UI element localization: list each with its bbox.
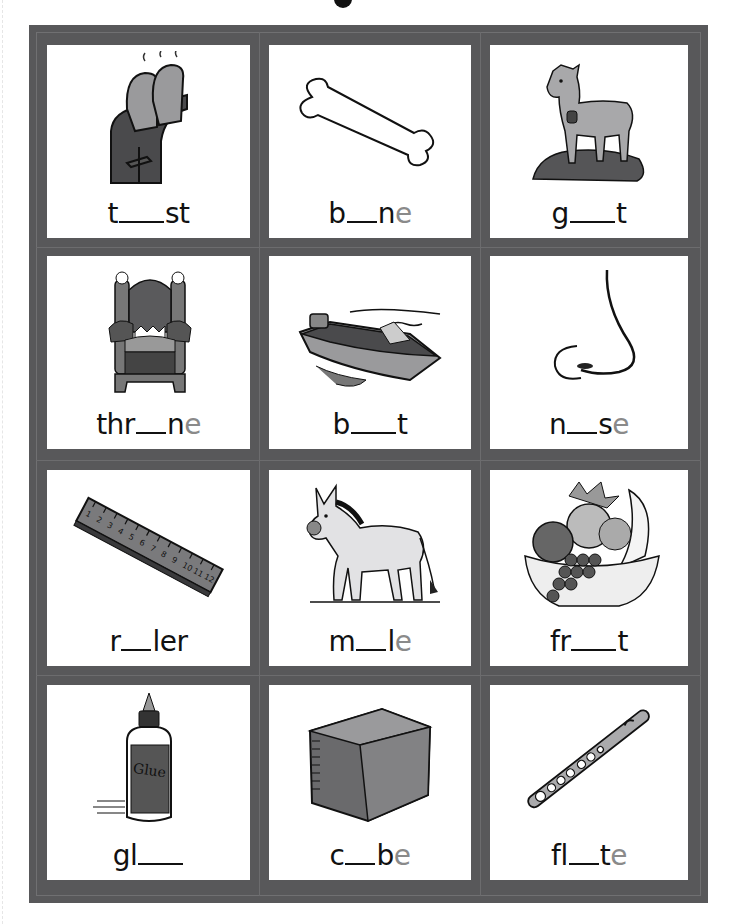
word-card-goat: gt [490,45,688,238]
word-prefix: gl [113,839,138,872]
word-prefix: g [552,197,569,230]
boat-icon [290,262,450,402]
page-edge-line [2,0,3,924]
grid-divider [36,460,701,461]
fill-in-blank[interactable] [571,627,616,651]
ruler-icon: 123456789101112 [69,476,229,616]
word-suffix: n [378,197,395,230]
fill-in-blank[interactable] [351,410,396,434]
word-prefix: thr [96,408,135,441]
word-prefix: b [333,408,350,441]
silent-e: e [394,839,411,872]
silent-e: e [395,625,412,658]
grid-divider [480,32,481,896]
bone-icon [290,51,450,191]
silent-e: e [395,197,412,230]
word-suffix: ler [152,625,187,658]
fill-in-blank[interactable] [136,410,166,434]
word-card-cube: cbe [269,685,471,880]
word-label: rler [47,626,250,658]
word-prefix: b [328,197,345,230]
fill-in-blank[interactable] [569,841,599,865]
word-prefix: m [329,625,356,658]
fruit-basket-icon [509,476,669,616]
word-suffix: t [397,408,407,441]
fill-in-blank[interactable] [138,841,183,865]
grid-divider [36,675,701,676]
grid-divider [259,32,260,896]
throne-icon [69,262,229,402]
mule-icon [290,476,450,616]
cube-icon [290,691,450,831]
word-suffix: n [167,408,184,441]
picture: Glue [47,691,250,831]
word-label: mle [269,626,471,658]
word-prefix: c [330,839,345,872]
word-card-boat: bt [269,256,471,449]
toaster-icon [69,51,229,191]
picture [490,262,688,402]
word-label: flte [490,840,688,872]
word-label: tst [47,198,250,230]
word-label: bne [269,198,471,230]
word-suffix: t [600,839,610,872]
word-card-mule: mle [269,470,471,666]
word-prefix: fl [551,839,568,872]
word-card-bone: bne [269,45,471,238]
picture [490,476,688,616]
word-label: bt [269,409,471,441]
title-fragment [334,0,352,8]
glue-bottle-icon: Glue [69,691,229,831]
fill-in-blank[interactable] [121,627,151,651]
picture [47,51,250,191]
word-label: gt [490,198,688,230]
word-prefix: fr [550,625,570,658]
flute-icon [509,691,669,831]
goat-icon [509,51,669,191]
nose-icon [509,262,669,402]
picture [490,691,688,831]
word-label: gl [47,840,250,872]
fill-in-blank[interactable] [119,199,164,223]
picture: 123456789101112 [47,476,250,616]
word-card-toast: tst [47,45,250,238]
picture [269,262,471,402]
word-label: frt [490,626,688,658]
word-prefix: n [549,408,566,441]
word-card-ruler: 123456789101112 rler [47,470,250,666]
word-label: nse [490,409,688,441]
word-prefix: r [109,625,120,658]
picture [269,476,471,616]
word-suffix: l [387,625,394,658]
fill-in-blank[interactable] [356,627,386,651]
word-card-flute: flte [490,685,688,880]
word-card-throne: thrne [47,256,250,449]
picture [269,691,471,831]
word-suffix: b [376,839,393,872]
fill-in-blank[interactable] [570,199,615,223]
silent-e: e [184,408,201,441]
word-card-fruit: frt [490,470,688,666]
fill-in-blank[interactable] [345,841,375,865]
fill-in-blank[interactable] [347,199,377,223]
silent-e: e [610,839,627,872]
word-suffix: s [598,408,612,441]
word-suffix: t [617,625,627,658]
silent-e: e [612,408,629,441]
word-card-glue: Glue gl [47,685,250,880]
word-label: thrne [47,409,250,441]
word-card-nose: nse [490,256,688,449]
fill-in-blank[interactable] [567,410,597,434]
word-suffix: st [165,197,190,230]
grid-divider [36,247,701,248]
word-label: cbe [269,840,471,872]
picture [47,262,250,402]
picture [490,51,688,191]
word-prefix: t [107,197,117,230]
word-suffix: t [616,197,626,230]
picture [269,51,471,191]
